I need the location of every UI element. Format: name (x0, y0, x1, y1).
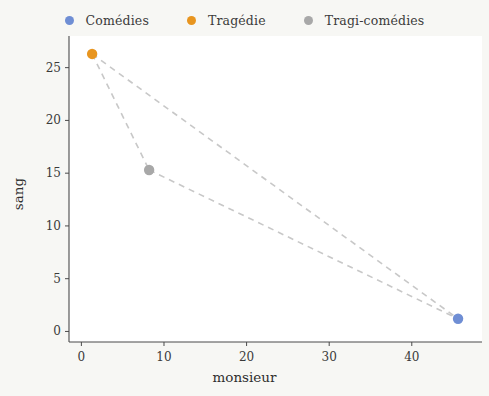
chart-figure: ComédiesTragédieTragi-comédies monsieur … (0, 0, 489, 396)
x-tick-label: 0 (78, 350, 86, 364)
y-tick-label: 5 (29, 272, 61, 286)
legend-label: Tragédie (208, 13, 266, 28)
legend-marker-icon (304, 16, 313, 25)
data-point-trag-die[interactable] (87, 49, 97, 59)
legend-label: Tragi-comédies (325, 13, 425, 28)
y-tick-label: 0 (29, 324, 61, 338)
y-tick-label: 10 (29, 219, 61, 233)
x-tick-label: 40 (404, 350, 419, 364)
x-tick-label: 30 (322, 350, 337, 364)
data-point-tragi-com-dies[interactable] (144, 165, 154, 175)
data-point-com-dies[interactable] (453, 314, 463, 324)
x-axis-title: monsieur (0, 369, 489, 385)
y-tick-label: 25 (29, 61, 61, 75)
y-tick-label: 15 (29, 166, 61, 180)
legend-marker-icon (187, 16, 196, 25)
x-tick-label: 10 (156, 350, 171, 364)
scatter-plot-canvas (0, 0, 489, 396)
y-tick-label: 20 (29, 113, 61, 127)
legend-entry-tragi-com-dies[interactable]: Tragi-comédies (304, 13, 425, 28)
legend-label: Comédies (86, 13, 149, 28)
chart-legend: ComédiesTragédieTragi-comédies (0, 13, 489, 28)
y-axis-title: sang (10, 154, 26, 234)
legend-entry-trag-die[interactable]: Tragédie (187, 13, 266, 28)
legend-marker-icon (65, 16, 74, 25)
legend-entry-com-dies[interactable]: Comédies (65, 13, 149, 28)
x-tick-label: 20 (239, 350, 254, 364)
